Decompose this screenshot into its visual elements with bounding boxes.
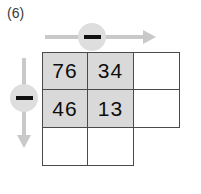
minus-icon	[16, 96, 33, 100]
grid-cell	[133, 89, 180, 128]
horizontal-minus-operator-badge	[78, 23, 106, 51]
grid-row: 76 34	[43, 53, 180, 91]
vertical-minus-operator-badge	[10, 84, 38, 112]
grid-cell	[42, 127, 89, 166]
grid-cell: 46	[42, 89, 89, 128]
number-grid: 76 34 46 13	[43, 53, 180, 166]
grid-cell: 13	[87, 89, 134, 128]
grid-cell	[133, 52, 180, 91]
puzzle-figure: (6) 76 34 46 13	[0, 0, 201, 194]
grid-cell: 34	[87, 52, 134, 91]
arrow-right-icon	[143, 30, 156, 44]
minus-icon	[84, 35, 101, 39]
arrow-down-icon	[17, 135, 31, 148]
grid-row: 46 13	[43, 91, 180, 129]
figure-label: (6)	[7, 5, 24, 21]
grid-cell: 76	[42, 52, 89, 91]
grid-row	[43, 128, 180, 166]
grid-cell	[87, 127, 134, 166]
